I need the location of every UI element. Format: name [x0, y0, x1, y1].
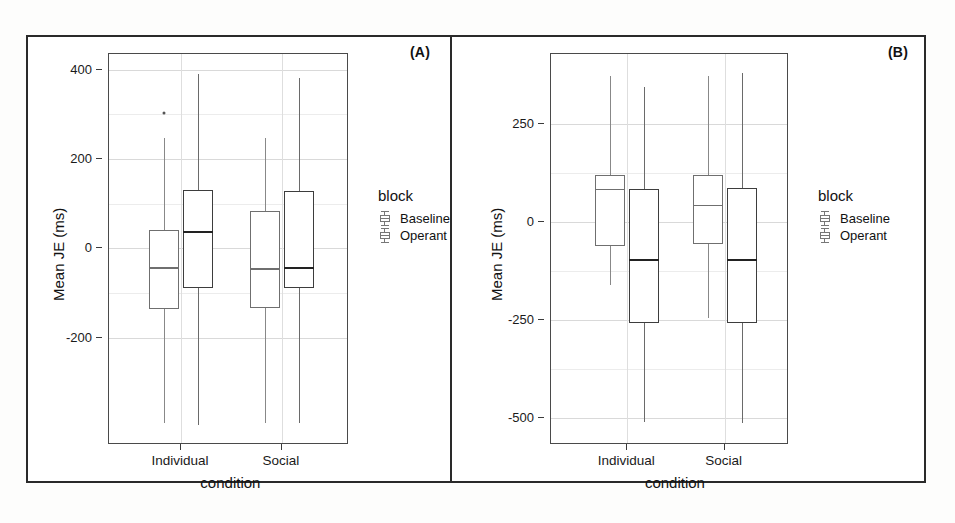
panel-a-x-axis-title: condition [200, 474, 260, 491]
boxplot-operant-social[interactable] [109, 54, 347, 443]
panel-b-legend-label-baseline: Baseline [840, 211, 890, 226]
panel-a-legend-label-operant: Operant [400, 228, 447, 243]
y-tick-label: 200 [70, 151, 92, 166]
y-tick-label: -250 [508, 311, 534, 326]
panel-a-legend-label-baseline: Baseline [400, 211, 450, 226]
y-tick-label: -500 [508, 409, 534, 424]
panel-b: (B) Mean JE (ms) 2500-250-500 Individual… [452, 35, 926, 483]
panel-a: (A) Mean JE (ms) 4002000-200 IndividualS… [26, 35, 452, 483]
panel-b-legend-item-baseline[interactable]: Baseline [818, 211, 890, 226]
x-tick-mark [626, 444, 627, 450]
panel-b-plot-area [550, 53, 788, 444]
panel-b-legend-label-operant: Operant [840, 228, 887, 243]
y-tick-mark [96, 69, 102, 70]
panel-a-legend: block Baseline Operant [378, 187, 450, 245]
panel-a-legend-item-operant[interactable]: Operant [378, 228, 450, 243]
boxplot-key-icon [818, 211, 832, 226]
figure-canvas: (A) Mean JE (ms) 4002000-200 IndividualS… [0, 0, 955, 523]
x-tick-label: Social [262, 453, 299, 468]
y-tick-mark [538, 221, 544, 222]
panel-b-x-axis-title: condition [645, 474, 705, 491]
y-tick-mark [96, 247, 102, 248]
panel-a-tag: (A) [410, 44, 430, 60]
panel-b-y-tick-labels: 2500-250-500 [494, 53, 544, 444]
y-tick-mark [538, 417, 544, 418]
panel-b-tag: (B) [888, 44, 908, 60]
boxplot-operant-social[interactable] [551, 54, 787, 443]
y-tick-label: 400 [70, 61, 92, 76]
boxplot-median [727, 259, 757, 261]
boxplot-key-icon [378, 211, 392, 226]
y-tick-mark [96, 337, 102, 338]
y-tick-label: 0 [85, 240, 92, 255]
y-tick-mark [96, 158, 102, 159]
boxplot-key-icon [818, 228, 832, 243]
x-tick-label: Social [705, 453, 742, 468]
panel-a-plot-area [108, 53, 348, 444]
y-tick-mark [538, 123, 544, 124]
x-tick-label: Individual [151, 453, 208, 468]
y-tick-mark [538, 319, 544, 320]
panel-b-legend-title: block [818, 187, 890, 204]
boxplot-box [284, 191, 314, 288]
x-tick-label: Individual [598, 453, 655, 468]
panel-b-legend: block Baseline Operant [818, 187, 890, 245]
panel-a-legend-item-baseline[interactable]: Baseline [378, 211, 450, 226]
x-tick-mark [180, 444, 181, 450]
y-tick-label: -200 [66, 329, 92, 344]
panel-a-legend-title: block [378, 187, 450, 204]
y-tick-label: 0 [527, 214, 534, 229]
panel-b-legend-item-operant[interactable]: Operant [818, 228, 890, 243]
boxplot-median [284, 267, 314, 269]
boxplot-key-icon [378, 228, 392, 243]
x-tick-mark [724, 444, 725, 450]
x-tick-mark [281, 444, 282, 450]
y-tick-label: 250 [512, 116, 534, 131]
boxplot-box [727, 188, 757, 323]
panel-a-y-tick-labels: 4002000-200 [56, 53, 102, 444]
